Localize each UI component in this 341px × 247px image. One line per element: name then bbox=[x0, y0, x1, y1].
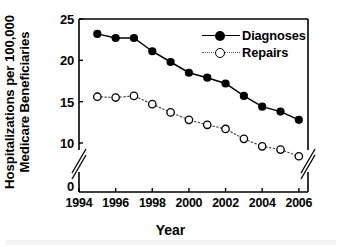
legend-symbol-open-circle-icon bbox=[200, 46, 242, 60]
data-point-diagnoses-1997 bbox=[130, 34, 138, 42]
data-point-repairs-2006 bbox=[295, 153, 302, 160]
chart-legend: Diagnoses Repairs bbox=[200, 27, 330, 61]
data-point-repairs-1997 bbox=[130, 92, 137, 99]
data-point-diagnoses-2002 bbox=[221, 79, 229, 87]
data-point-repairs-1996 bbox=[112, 94, 119, 101]
data-point-diagnoses-2004 bbox=[258, 103, 266, 111]
legend-label-repairs: Repairs bbox=[242, 45, 288, 60]
data-point-diagnoses-2003 bbox=[240, 92, 248, 100]
data-point-repairs-2004 bbox=[259, 143, 266, 150]
data-point-diagnoses-1999 bbox=[167, 58, 175, 66]
data-point-repairs-2001 bbox=[204, 121, 211, 128]
chart-figure: Hospitalizations per 100,000 Medicare Be… bbox=[0, 0, 341, 247]
data-point-repairs-2003 bbox=[240, 135, 247, 142]
data-point-diagnoses-2000 bbox=[185, 69, 193, 77]
data-point-repairs-2000 bbox=[185, 116, 192, 123]
legend-label-diagnoses: Diagnoses bbox=[242, 28, 306, 43]
data-point-repairs-1998 bbox=[149, 100, 156, 107]
data-point-repairs-1999 bbox=[167, 109, 174, 116]
data-point-diagnoses-1995 bbox=[93, 30, 101, 38]
data-point-diagnoses-2006 bbox=[295, 116, 303, 124]
data-point-repairs-1995 bbox=[94, 93, 101, 100]
data-point-diagnoses-1998 bbox=[148, 47, 156, 55]
caption-artifact bbox=[6, 240, 336, 245]
legend-item-diagnoses: Diagnoses bbox=[200, 27, 330, 44]
data-point-diagnoses-1996 bbox=[112, 34, 120, 42]
data-point-diagnoses-2001 bbox=[203, 74, 211, 82]
series-line-repairs bbox=[97, 96, 299, 156]
legend-item-repairs: Repairs bbox=[200, 44, 330, 61]
legend-symbol-filled-circle-icon bbox=[200, 29, 242, 43]
data-point-repairs-2005 bbox=[277, 146, 284, 153]
data-point-diagnoses-2005 bbox=[276, 107, 284, 115]
data-point-repairs-2002 bbox=[222, 125, 229, 132]
x-axis-title: Year bbox=[0, 222, 341, 238]
